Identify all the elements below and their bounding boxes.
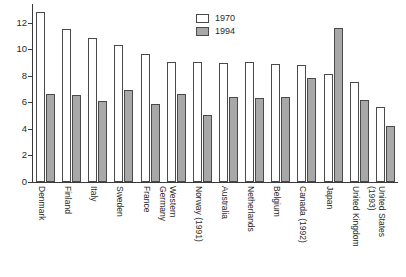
bar-group <box>62 4 81 182</box>
bar-1994 <box>255 98 264 182</box>
legend-label-1994: 1994 <box>215 27 235 36</box>
bar-1994 <box>72 95 81 182</box>
y-tick-label: 6 <box>22 98 27 108</box>
category-label-line: Australia <box>220 186 230 219</box>
y-tick-label: 12 <box>16 18 27 28</box>
bar-1970 <box>350 82 359 182</box>
x-axis-line <box>32 182 398 183</box>
y-tick-label: 4 <box>22 124 27 134</box>
category-label: Japan <box>324 186 334 209</box>
category-label-line: France <box>142 186 152 212</box>
bar-1994 <box>98 101 107 182</box>
chart-legend: 1970 1994 <box>196 14 235 36</box>
bar-1970 <box>297 65 306 182</box>
category-label: United Kingdom <box>350 186 360 246</box>
category-label-line: Japan <box>325 186 335 209</box>
bar-1994 <box>307 78 316 182</box>
category-label: Finland <box>63 186 73 214</box>
category-label: Netherlands <box>246 186 256 232</box>
bar-group <box>271 4 290 182</box>
category-label: WesternGermany <box>158 186 177 221</box>
bar-group <box>350 4 369 182</box>
white-outline-swatch <box>196 14 209 23</box>
category-label-line: Canada (1992) <box>298 186 308 243</box>
bar-1994 <box>334 28 343 182</box>
category-label-line: Netherlands <box>246 186 256 232</box>
legend-label-1970: 1970 <box>215 14 235 23</box>
category-label-line: Sweden <box>115 186 125 217</box>
bar-1994 <box>203 115 212 182</box>
category-label-line: Finland <box>63 186 73 214</box>
category-label-line: Italy <box>89 186 99 202</box>
bar-1970 <box>245 62 254 182</box>
bar-1970 <box>271 64 280 182</box>
bar-1994 <box>151 104 160 182</box>
bar-group <box>376 4 395 182</box>
bar-1994 <box>46 94 55 182</box>
bar-1970 <box>376 107 385 182</box>
bar-group <box>167 4 186 182</box>
y-tick-label: 0 <box>22 177 27 187</box>
bar-group <box>245 4 264 182</box>
category-label-line: United Kingdom <box>351 186 361 246</box>
category-label-line: Belgium <box>272 186 282 217</box>
bar-1994 <box>360 100 369 182</box>
bar-chart: 024681012 1970 1994 DenmarkFinlandItalyS… <box>0 0 406 277</box>
category-label: Australia <box>220 186 230 219</box>
category-label-line: (1993) <box>367 186 377 237</box>
category-label-line: Norway (1991) <box>194 186 204 242</box>
bar-1994 <box>124 90 133 182</box>
bar-1994 <box>386 126 395 182</box>
category-label: United States(1993) <box>367 186 386 237</box>
bar-1994 <box>177 94 186 182</box>
bar-group <box>324 4 343 182</box>
category-label-line: Germany <box>158 186 168 221</box>
category-label: Italy <box>89 186 99 202</box>
bar-1970 <box>62 29 71 182</box>
bar-group <box>88 4 107 182</box>
tick-mark <box>28 182 32 183</box>
bar-1970 <box>324 74 333 182</box>
y-tick-label: 10 <box>16 44 27 54</box>
bar-group <box>141 4 160 182</box>
bar-1970 <box>193 62 202 182</box>
category-label-line: Denmark <box>37 186 47 220</box>
category-label: Canada (1992) <box>298 186 308 243</box>
gray-filled-swatch <box>196 27 209 36</box>
category-label: Sweden <box>115 186 125 217</box>
bar-group <box>36 4 55 182</box>
y-tick-label: 8 <box>22 71 27 81</box>
legend-item-1994: 1994 <box>196 27 235 36</box>
bar-1994 <box>281 97 290 182</box>
y-tick-label: 2 <box>22 151 27 161</box>
bar-1970 <box>219 63 228 182</box>
bar-1994 <box>229 97 238 182</box>
category-label: Denmark <box>37 186 47 220</box>
category-label: Belgium <box>272 186 282 217</box>
x-axis-category-labels: DenmarkFinlandItalySwedenFranceWesternGe… <box>32 186 398 276</box>
bar-1970 <box>141 54 150 182</box>
legend-item-1970: 1970 <box>196 14 235 23</box>
bar-1970 <box>88 38 97 182</box>
bar-group <box>114 4 133 182</box>
category-label-line: Western <box>168 186 178 218</box>
bar-group <box>297 4 316 182</box>
category-label: France <box>141 186 151 212</box>
bar-1970 <box>167 62 176 182</box>
bar-1970 <box>36 12 45 182</box>
category-label: Norway (1991) <box>193 186 203 242</box>
category-label-line: United States <box>377 186 387 237</box>
bar-1970 <box>114 45 123 182</box>
